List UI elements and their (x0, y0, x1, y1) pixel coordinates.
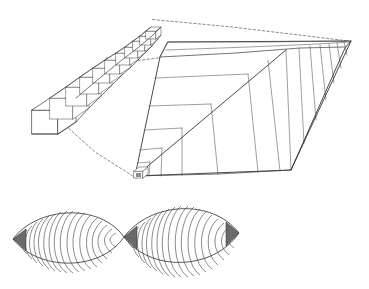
technical-line-figure: Tapered blade mesh with detail callout a… (0, 0, 369, 289)
figure-root: Tapered blade mesh with detail callout a… (0, 0, 369, 289)
